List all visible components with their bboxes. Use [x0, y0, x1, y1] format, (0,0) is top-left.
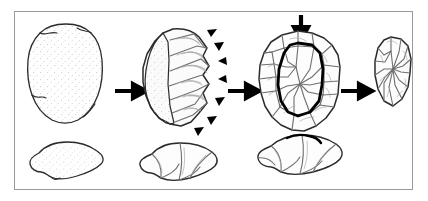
strike-marker-4: [218, 75, 227, 83]
strike-marker-5: [215, 97, 225, 106]
stage-3-plan-view: [254, 29, 350, 137]
figure-root: [0, 0, 428, 201]
stage-1-profile-view: [27, 139, 107, 183]
stage-1-plan-view: [25, 22, 107, 126]
strike-marker-2: [214, 42, 224, 51]
strike-marker-1: [207, 29, 217, 37]
stage-3-profile-view: [255, 132, 349, 180]
stage-2-profile-view: [138, 139, 222, 183]
strike-marker-7: [194, 127, 204, 136]
strike-marker-3: [218, 57, 227, 65]
stage-2-plan-view: [139, 26, 223, 130]
strike-marker-6: [207, 116, 217, 125]
figure-frame: [14, 11, 413, 190]
stage-4-plan-view: [369, 35, 417, 111]
